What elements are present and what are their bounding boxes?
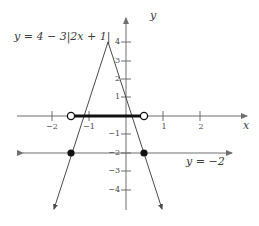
y-tick-label-2: 2	[110, 75, 120, 83]
y-tick-label-4: 4	[110, 38, 120, 46]
y-tick-label--4: −4	[106, 186, 120, 194]
curve-absolute-value	[54, 42, 108, 209]
y-tick-label--2: −2	[106, 149, 120, 157]
curve-equation-label: y = 4 − 3|2x + 1|	[14, 31, 110, 42]
filled-point-left	[67, 149, 74, 156]
filled-point-right	[140, 149, 147, 156]
y-tick-label--3: −3	[106, 167, 120, 175]
x-tick-label-2: 2	[196, 123, 206, 131]
x-tick-label--2: −2	[46, 123, 58, 131]
x-tick-label-1: 1	[159, 123, 169, 131]
y-axis-label: y	[150, 10, 156, 21]
y-tick-label--1: −1	[106, 130, 120, 138]
open-point-right	[140, 112, 147, 119]
x-axis-label: x	[243, 120, 249, 131]
line-equation-label: y = −2	[186, 156, 225, 167]
open-point-left	[67, 112, 74, 119]
y-tick-label-1: 1	[110, 93, 120, 101]
curve-absolute-value-right	[108, 42, 162, 209]
graph-figure: x y y = 4 − 3|2x + 1| y = −2 −2 −1 1 2 4…	[0, 0, 259, 226]
y-tick-label-3: 3	[110, 57, 120, 65]
x-tick-label--1: −1	[83, 123, 95, 131]
